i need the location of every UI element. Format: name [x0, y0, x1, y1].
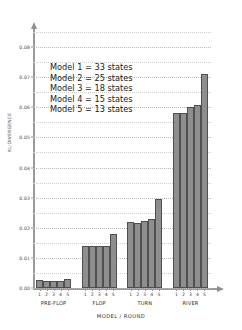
bar [50, 281, 57, 288]
y-axis-title: KL-DIVERGENCE [7, 78, 12, 188]
legend: Model 1 = 33 states Model 2 = 25 states … [50, 62, 133, 115]
y-tick-label: 0.07 [19, 75, 30, 80]
bar [155, 199, 162, 288]
x-tick-label: 5 [66, 292, 69, 297]
x-tick-mark [99, 289, 100, 292]
x-tick-mark [92, 289, 93, 292]
x-tick-mark [159, 289, 160, 292]
x-group-label: PRE-FLOP [41, 300, 67, 306]
x-axis-title: MODEL / ROUND [0, 313, 242, 319]
legend-row: Model 2 = 25 states [50, 73, 133, 84]
y-tick-mark [31, 257, 34, 258]
gridline [33, 47, 211, 48]
x-tick-mark [183, 289, 184, 292]
bar [134, 223, 141, 288]
y-tick-mark [31, 137, 34, 138]
y-tick-label: 0.03 [19, 195, 30, 200]
x-tick-label: 4 [196, 292, 199, 297]
y-tick-label: 0.05 [19, 135, 30, 140]
bar [103, 246, 110, 288]
x-tick-label: 2 [182, 292, 185, 297]
x-tick-label: 3 [143, 292, 146, 297]
legend-row: Model 3 = 18 states [50, 83, 133, 94]
y-tick-mark [31, 167, 34, 168]
bar [96, 246, 103, 288]
x-tick-mark [204, 289, 205, 292]
bar [82, 246, 89, 288]
x-tick-mark [145, 289, 146, 292]
x-tick-label: 4 [150, 292, 153, 297]
y-tick-mark [31, 77, 34, 78]
x-tick-label: 4 [59, 292, 62, 297]
x-tick-mark [85, 289, 86, 292]
x-tick-label: 4 [105, 292, 108, 297]
x-tick-mark [106, 289, 107, 292]
x-axis-arrow-icon [217, 286, 224, 292]
x-tick-mark [176, 289, 177, 292]
x-tick-mark [61, 289, 62, 292]
bar [180, 113, 187, 288]
bar [187, 107, 194, 288]
x-tick-label: 3 [189, 292, 192, 297]
bar [173, 113, 180, 288]
x-tick-label: 2 [136, 292, 139, 297]
bar [36, 280, 43, 288]
bar [110, 234, 117, 288]
bar [64, 279, 71, 288]
y-tick-mark [31, 107, 34, 108]
x-tick-label: 1 [175, 292, 178, 297]
x-group-label: RIVER [182, 300, 198, 306]
x-tick-mark [197, 289, 198, 292]
gridline-minor [33, 32, 211, 33]
x-group-label: FLOP [93, 300, 106, 306]
y-tick-label: 0.02 [19, 225, 30, 230]
chart-figure: 0.080.070.060.050.040.030.020.010.00 Mod… [0, 0, 242, 330]
bar [43, 281, 50, 288]
bar [194, 105, 201, 288]
y-tick-mark [31, 288, 34, 289]
x-tick-label: 5 [203, 292, 206, 297]
x-tick-label: 2 [91, 292, 94, 297]
y-axis-arrow-icon [31, 22, 37, 29]
bar [201, 74, 208, 288]
x-tick-mark [54, 289, 55, 292]
x-tick-mark [138, 289, 139, 292]
x-tick-label: 5 [112, 292, 115, 297]
bar [57, 281, 64, 288]
x-tick-label: 1 [84, 292, 87, 297]
x-tick-label: 5 [157, 292, 160, 297]
x-tick-mark [47, 289, 48, 292]
x-tick-label: 3 [98, 292, 101, 297]
bar [141, 221, 148, 288]
x-tick-mark [152, 289, 153, 292]
y-tick-mark [31, 47, 34, 48]
bar [89, 246, 96, 288]
x-tick-mark [68, 289, 69, 292]
legend-row: Model 4 = 15 states [50, 94, 133, 105]
y-tick-label: 0.01 [19, 255, 30, 260]
x-tick-mark [190, 289, 191, 292]
x-tick-mark [40, 289, 41, 292]
x-tick-label: 3 [52, 292, 55, 297]
legend-row: Model 5 = 13 states [50, 104, 133, 115]
bar [127, 222, 134, 288]
y-tick-label: 0.08 [19, 45, 30, 50]
x-tick-label: 2 [45, 292, 48, 297]
x-tick-label: 1 [38, 292, 41, 297]
y-tick-label: 0.06 [19, 105, 30, 110]
y-tick-label: 0.04 [19, 165, 30, 170]
x-tick-label: 1 [129, 292, 132, 297]
y-tick-mark [31, 227, 34, 228]
x-tick-mark [113, 289, 114, 292]
y-tick-label: 0.00 [19, 286, 30, 291]
legend-row: Model 1 = 33 states [50, 62, 133, 73]
x-group-label: TURN [137, 300, 152, 306]
bar [148, 219, 155, 288]
y-tick-mark [31, 197, 34, 198]
x-tick-mark [131, 289, 132, 292]
